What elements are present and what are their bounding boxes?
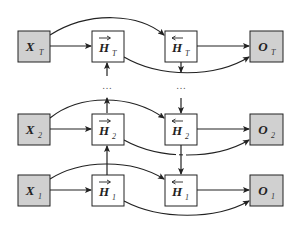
- svg-text:2: 2: [185, 132, 189, 141]
- svg-text:2: 2: [271, 131, 275, 140]
- svg-text:T: T: [39, 48, 44, 57]
- svg-text:1: 1: [271, 192, 275, 201]
- svg-text:T: T: [271, 48, 276, 57]
- svg-text:H: H: [98, 184, 110, 199]
- svg-text:O: O: [258, 122, 268, 137]
- edges: [50, 18, 249, 216]
- svg-text:T: T: [185, 49, 190, 58]
- svg-text:2: 2: [38, 131, 42, 140]
- svg-text:X: X: [25, 183, 35, 198]
- backward-ellipsis: …: [176, 80, 186, 91]
- svg-text:2: 2: [112, 132, 116, 141]
- svg-text:H: H: [171, 40, 183, 55]
- forward-ellipsis: …: [102, 80, 112, 91]
- svg-text:O: O: [258, 183, 268, 198]
- svg-text:H: H: [171, 184, 183, 199]
- input-label-xT: X: [25, 39, 35, 54]
- svg-text:T: T: [112, 49, 117, 58]
- svg-text:H: H: [171, 123, 183, 138]
- svg-text:X: X: [25, 122, 35, 137]
- svg-text:1: 1: [185, 193, 189, 202]
- bidirectional-rnn-diagram: X T H T H T O T … … X 2 H 2 H 2 O 2: [0, 0, 297, 228]
- svg-text:1: 1: [38, 192, 42, 201]
- svg-text:H: H: [98, 123, 110, 138]
- svg-text:H: H: [98, 40, 110, 55]
- svg-text:1: 1: [112, 193, 116, 202]
- svg-text:O: O: [258, 39, 268, 54]
